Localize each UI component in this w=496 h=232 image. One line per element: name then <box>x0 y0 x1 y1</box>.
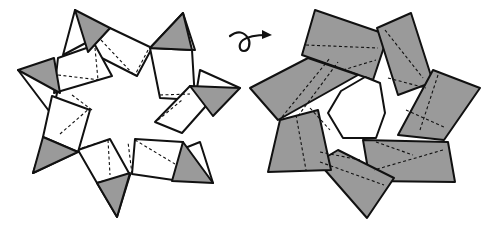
star-wreath-back <box>248 0 496 232</box>
star-wreath-back-drawing <box>248 0 496 232</box>
star-wreath-front-drawing <box>0 0 248 232</box>
star-wreath-front <box>0 0 248 232</box>
